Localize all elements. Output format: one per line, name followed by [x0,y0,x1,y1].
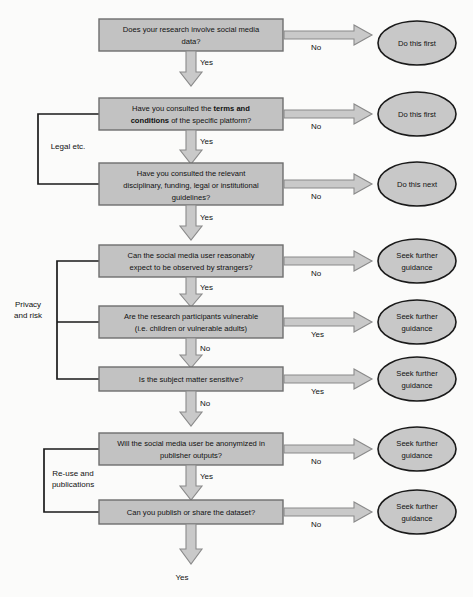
branch-label-d8-down: Yes [175,573,188,582]
flowchart-canvas: Does your research involve social media … [0,0,473,597]
branch-arrow-d5-down [180,338,202,368]
outcome-ellipse-o6-line-1: Seek further [396,369,438,378]
outcome-ellipse-o5[interactable] [378,300,456,344]
flowchart-page: Does your research involve social media … [0,0,473,597]
outcome-ellipse-o4[interactable] [378,239,456,283]
branch-arrow-d1-down [180,51,202,86]
decision-box-d4-line-1: Can the social media user reasonably [127,251,254,260]
decision-box-d3-line-2: disciplinary, funding, legal or institut… [123,181,259,190]
decision-box-d6-line-1: Is the subject matter sensitive? [139,375,243,384]
decision-box-d2-line-1-bold: terms and [214,104,251,113]
decision-box-d7-line-1: Will the social media user be anonymized… [117,439,265,448]
decision-box-d2-line-1-plain: Have you consulted the [132,104,213,113]
branch-label-d1-down: Yes [200,58,213,67]
branch-arrow-d6-down [180,391,202,426]
outcome-ellipse-o4-line-1: Seek further [396,251,438,260]
group-label-g3-line-1: Re-use and [52,469,93,478]
decision-box-d2-line-1: Have you consulted the terms and [132,104,250,113]
branch-arrow-d8-right [284,502,372,522]
outcome-ellipse-o4-line-2: guidance [402,263,433,272]
branch-arrow-d3-right [284,174,372,194]
decision-box-d7-line-2: publisher outputs? [160,451,222,460]
branch-arrow-d2-right [284,104,372,124]
branch-label-d2-right: No [311,122,322,131]
outcome-ellipse-o1-line-1: Do this first [398,39,437,48]
outcome-ellipse-o6-line-2: guidance [402,381,433,390]
outcome-ellipse-o8[interactable] [378,490,456,534]
outcome-ellipse-o7-line-1: Seek further [396,439,438,448]
branch-arrow-d7-right [284,439,372,459]
branch-arrow-d4-right [284,251,372,271]
branch-arrow-d1-right [284,25,372,45]
branch-arrow-d6-right [284,369,372,389]
outcome-ellipse-o5-line-2: guidance [402,324,433,333]
group-label-g1-line-1: Legal etc. [51,142,86,151]
outcome-ellipse-o3-line-1: Do this next [397,180,438,189]
branch-label-d6-right: Yes [311,387,324,396]
branch-arrow-d4-down [180,277,202,307]
branch-label-d7-right: No [311,457,322,466]
outcome-ellipse-o5-line-1: Seek further [396,312,438,321]
decision-box-d8-line-1: Can you publish or share the dataset? [127,508,255,517]
branch-arrow-d7-down [180,465,202,500]
group-label-g3-line-2: publications [52,480,94,489]
branch-label-d6-down: No [200,399,211,408]
branch-label-d2-down: Yes [200,137,213,146]
outcome-ellipse-o2-line-1: Do this first [398,110,437,119]
decision-box-d2-line-2: conditions of the specific platform? [131,116,252,125]
decision-box-d2-line-2-bold: conditions [131,116,169,125]
branch-label-d5-down: No [200,344,211,353]
outcome-ellipse-o7[interactable] [378,427,456,471]
branch-label-d1-right: No [311,43,322,52]
branch-arrow-d8-down [180,524,202,564]
branch-arrow-d5-right [284,312,372,332]
decision-box-d1-line-2: data? [181,37,200,46]
outcome-ellipse-o7-line-2: guidance [402,451,433,460]
decision-box-d1-line-1: Does your research involve social media [123,25,260,34]
branch-label-d4-right: No [311,269,322,278]
decision-box-d3-line-3: guidelines? [172,193,210,202]
branch-label-d8-right: No [311,520,322,529]
decision-box-d3-line-1: Have you consulted the relevant [137,169,246,178]
branch-label-d3-right: No [311,192,322,201]
decision-box-d4-line-2: expect to be observed by strangers? [130,263,253,272]
branch-arrow-d2-down [180,130,202,164]
outcome-ellipse-o8-line-1: Seek further [396,502,438,511]
outcome-ellipse-o6[interactable] [378,357,456,401]
decision-box-d5-line-1: Are the research participants vulnerable [124,312,258,321]
group-label-g2-line-1: Privacy [15,300,41,309]
branch-label-d7-down: Yes [200,472,213,481]
branch-arrow-d3-down [180,205,202,240]
branch-label-d5-right: Yes [311,330,324,339]
branch-label-d3-down: Yes [200,213,213,222]
branch-label-d4-down: Yes [200,283,213,292]
group-label-g2-line-2: and risk [14,311,43,320]
loop-line-privacy [57,261,99,379]
outcome-ellipse-o8-line-2: guidance [402,514,433,523]
decision-box-d5-line-2: (i.e. children or vulnerable adults) [135,324,248,333]
decision-box-d2-line-2-plain: of the specific platform? [169,116,251,125]
